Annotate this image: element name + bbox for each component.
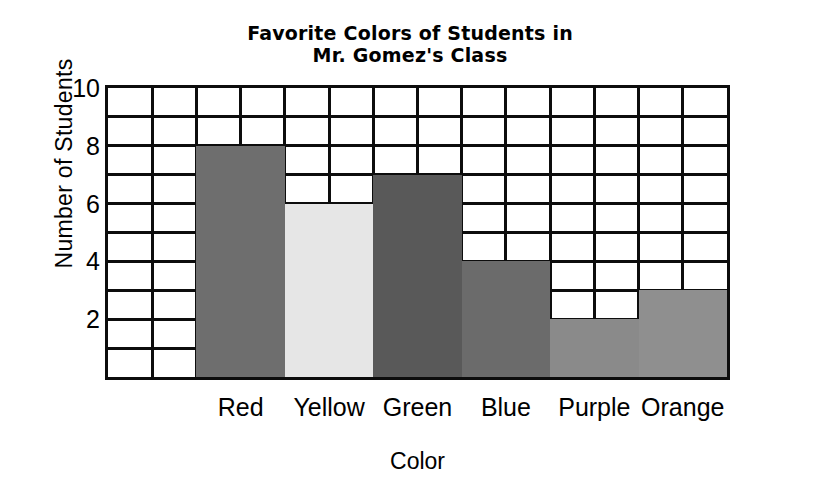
y-tick-label-2: 2 [48, 307, 100, 332]
x-axis-category-labels: RedYellowGreenBluePurpleOrange [105, 392, 730, 426]
y-tick-label-10: 10 [48, 76, 100, 101]
bar-orange [639, 290, 727, 377]
bar-chart-figure: Favorite Colors of Students in Mr. Gomez… [0, 0, 815, 494]
plot-grid-and-bars [108, 88, 727, 377]
y-tick-label-4: 4 [48, 249, 100, 274]
chart-title: Favorite Colors of Students in Mr. Gomez… [60, 22, 760, 66]
chart-title-line-2: Mr. Gomez's Class [60, 44, 760, 66]
bar-green [373, 175, 461, 377]
bar-purple [550, 319, 638, 377]
bar-yellow [285, 204, 373, 377]
gridline-vertical [151, 88, 154, 377]
y-tick-label-6: 6 [48, 192, 100, 217]
x-category-label-orange: Orange [613, 392, 753, 422]
bar-blue [462, 261, 550, 377]
y-axis-tick-labels: 246810 [38, 85, 100, 380]
y-tick-label-8: 8 [48, 134, 100, 159]
x-axis-label: Color [105, 448, 730, 475]
plot-area [105, 85, 730, 380]
chart-title-line-1: Favorite Colors of Students in [60, 22, 760, 44]
bar-red [196, 146, 284, 377]
